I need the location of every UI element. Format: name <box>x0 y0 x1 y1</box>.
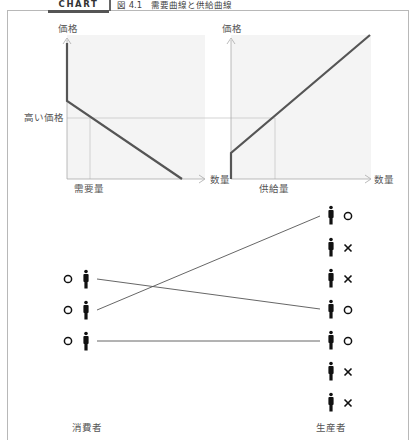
producer-6-person-icon <box>328 362 333 381</box>
demand-y-axis-label: 価格 <box>58 23 78 34</box>
producer-6-cross-mark-icon <box>345 369 352 376</box>
supply-y-axis-label: 価格 <box>222 23 242 34</box>
person-icon <box>83 301 88 320</box>
producers-group <box>328 206 351 412</box>
consumers-group <box>64 270 88 351</box>
producer-5-circle-mark-icon <box>344 337 351 344</box>
matching-lines <box>97 216 320 341</box>
demand-chart-shade <box>67 35 205 179</box>
producer-2-cross-mark-icon <box>345 245 352 252</box>
producer-3-cross-mark-icon <box>345 276 352 283</box>
consumer-1 <box>64 270 88 289</box>
supply-quantity-label: 供給量 <box>259 183 289 194</box>
high-price-label: 高い価格 <box>24 112 64 123</box>
producer-4-circle-mark-icon <box>344 306 351 313</box>
consumer-3 <box>64 332 88 351</box>
consumer-2 <box>64 301 88 320</box>
circle-mark-icon <box>64 306 71 313</box>
circle-mark-icon <box>64 275 71 282</box>
supply-chart-shade <box>231 35 371 179</box>
producer-3-person-icon <box>328 269 333 288</box>
demand-quantity-label: 需要量 <box>74 183 104 194</box>
producer-7-cross-mark-icon <box>345 400 352 407</box>
consumers-label: 消費者 <box>72 422 102 433</box>
producer-5-person-icon <box>328 331 333 350</box>
match-line-consumer2-producer1 <box>97 216 320 310</box>
producer-4-person-icon <box>328 300 333 319</box>
producer-7-person-icon <box>328 393 333 412</box>
supply-chart <box>227 35 371 183</box>
circle-mark-icon <box>64 337 71 344</box>
producer-1-person-icon <box>328 206 333 225</box>
producers-label: 生産者 <box>316 422 346 433</box>
person-icon <box>83 270 88 289</box>
supply-x-axis-label: 数量 <box>374 174 394 185</box>
demand-x-axis-label: 数量 <box>210 174 230 185</box>
match-line-consumer1-producer4 <box>97 279 320 309</box>
producer-2-person-icon <box>328 238 333 257</box>
person-icon <box>83 332 88 351</box>
producer-1-circle-mark-icon <box>344 212 351 219</box>
